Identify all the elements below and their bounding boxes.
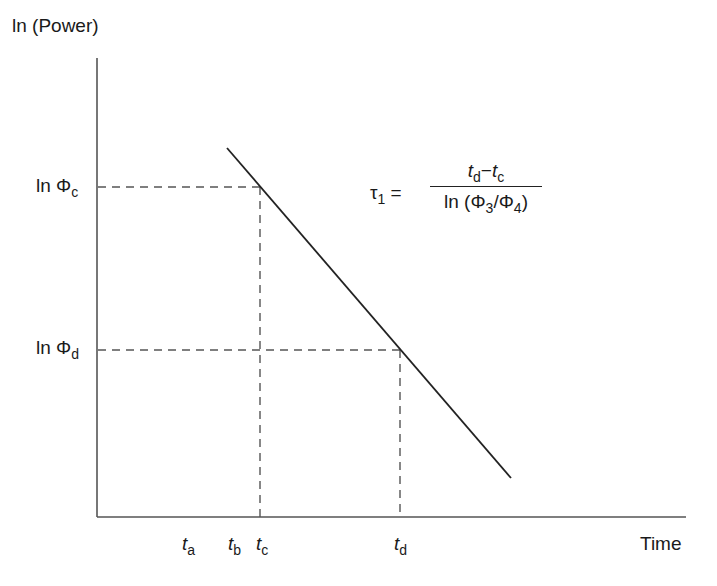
den-s1: 3	[486, 200, 494, 216]
y-tick-text: ln Φ	[36, 175, 71, 196]
x-tick-sub: d	[399, 542, 407, 558]
tau-sub: 1	[378, 191, 386, 207]
x-tick-sub: a	[187, 542, 195, 558]
tau-symbol: τ	[370, 182, 378, 203]
num-s1: d	[473, 169, 481, 185]
diagram-canvas	[0, 0, 717, 586]
y-tick-text: ln Φ	[36, 337, 71, 358]
x-axis-label: Time	[640, 534, 682, 553]
den-mid: /Φ	[493, 191, 513, 212]
num-minus: −	[481, 160, 492, 181]
y-axis-label: ln (Power)	[12, 16, 99, 35]
formula-fraction: td−tc ln (Φ3/Φ4)	[430, 160, 542, 213]
x-tick-td: td	[394, 534, 407, 553]
den-pre: ln (Φ	[444, 191, 486, 212]
y-tick-sub: d	[71, 346, 79, 362]
num-s2: c	[497, 169, 504, 185]
formula-lhs: τ1 =	[370, 182, 402, 204]
x-tick-sub: b	[233, 542, 241, 558]
x-tick-tb: tb	[228, 534, 241, 553]
den-s2: 4	[514, 200, 522, 216]
equals-sign: =	[385, 182, 401, 203]
den-post: )	[522, 191, 528, 212]
x-tick-sub: c	[261, 542, 268, 558]
y-tick-ln-phi-c: ln Φc	[36, 176, 78, 195]
x-tick-ta: ta	[182, 534, 195, 553]
y-tick-sub: c	[71, 184, 78, 200]
fraction-bar	[430, 186, 542, 187]
formula-denominator: ln (Φ3/Φ4)	[430, 191, 542, 213]
x-tick-tc: tc	[256, 534, 268, 553]
y-tick-ln-phi-d: ln Φd	[36, 338, 79, 357]
formula-numerator: td−tc	[430, 160, 542, 184]
